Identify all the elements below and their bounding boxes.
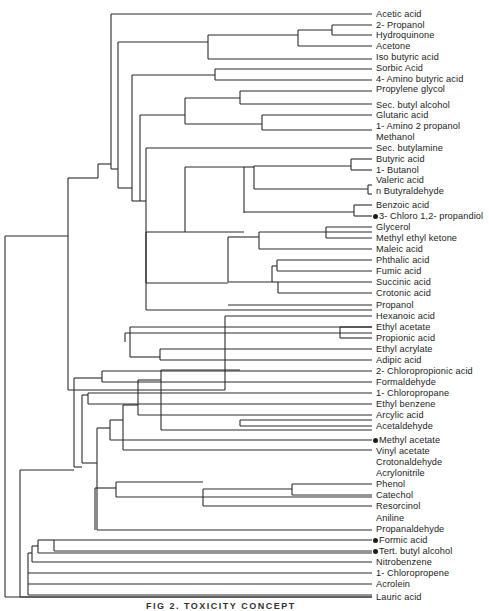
highlight-dot-icon — [373, 214, 378, 219]
leaf-label: Phthalic acid — [376, 255, 429, 265]
leaf-label: Lauric acid — [376, 592, 422, 602]
leaf-label: 1- Chloropropene — [376, 568, 449, 578]
leaf-label: Hexanoic acid — [376, 311, 435, 321]
leaf-label: Adipic acid — [376, 355, 422, 365]
highlight-dot-icon — [373, 538, 378, 543]
leaf-label: Acetaldehyde — [376, 421, 433, 431]
leaf-label: Crotonic acid — [376, 288, 431, 298]
leaf-label: 2- Chloropropionic acid — [376, 366, 473, 376]
leaf-label: Propylene glycol — [376, 84, 445, 94]
leaf-label: Methyl ethyl ketone — [376, 233, 457, 243]
leaf-label: Resorcinol — [376, 501, 420, 511]
leaf-label: Arcylic acid — [376, 410, 424, 420]
leaf-label: n Butyraldehyde — [376, 186, 444, 196]
highlight-dot-icon — [373, 549, 378, 554]
leaf-label: Butyric acid — [376, 154, 425, 164]
highlight-dot-icon — [373, 438, 378, 443]
leaf-label: Valeric acid — [376, 175, 424, 185]
leaf-label: Propionic acid — [376, 333, 435, 343]
figure-caption: FIG 2. TOXICITY CONCEPT — [146, 601, 296, 611]
leaf-label: Acetone — [376, 41, 410, 51]
leaf-label: Phenol — [376, 479, 405, 489]
leaf-label: Acrylonitrile — [376, 468, 425, 478]
leaf-label: Formic acid — [379, 535, 428, 545]
leaf-label: Nitrobenzene — [376, 557, 432, 567]
leaf-label: 1- Amino 2 propanol — [376, 121, 460, 131]
leaf-label: Acrolein — [376, 579, 410, 589]
leaf-label: Ethyl acrylate — [376, 344, 433, 354]
leaf-label: Glycerol — [376, 222, 411, 232]
leaf-label: Methyl acetate — [379, 435, 440, 445]
leaf-label: Methanol — [376, 132, 415, 142]
leaf-label: Benzoic acid — [376, 200, 429, 210]
leaf-label: 4- Amino butyric acid — [376, 74, 463, 84]
leaf-label: Ethyl acetate — [376, 322, 430, 332]
leaf-label: Glutaric acid — [376, 110, 428, 120]
leaf-label: Sec. butylamine — [376, 143, 443, 153]
leaf-label: Fumic acid — [376, 266, 421, 276]
leaf-label: Tert. butyl alcohol — [379, 546, 452, 556]
leaf-label: Crotonaldehyde — [376, 457, 442, 467]
leaf-label: Hydroquinone — [376, 30, 434, 40]
leaf-label: 3- Chloro 1,2- propandiol — [379, 211, 483, 221]
leaf-label: Succinic acid — [376, 277, 431, 287]
leaf-label: Maleic acid — [376, 244, 423, 254]
leaf-label: 2- Propanol — [376, 20, 425, 30]
leaf-label: Ethyl benzene — [376, 399, 436, 409]
leaf-label: Catechol — [376, 490, 413, 500]
leaf-label: Propanaldehyde — [376, 524, 444, 534]
leaf-label: 1- Chloropropane — [376, 388, 449, 398]
leaf-label: Acetic acid — [376, 9, 422, 19]
leaf-label: Formaldehyde — [376, 377, 436, 387]
leaf-label: Sec. butyl alcohol — [376, 100, 450, 110]
leaf-label: Sorbic Acid — [376, 63, 423, 73]
leaf-label: Iso butyric acid — [376, 52, 439, 62]
leaf-label: Propanol — [376, 300, 414, 310]
leaf-label: 1- Butanol — [376, 165, 419, 175]
leaf-label: Aniline — [376, 513, 404, 523]
leaf-label: Vinyl acetate — [376, 446, 430, 456]
